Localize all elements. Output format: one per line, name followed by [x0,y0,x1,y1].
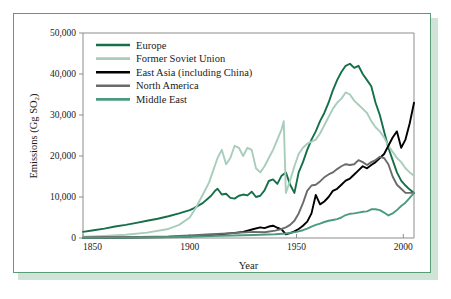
y-tick-label: 50,000 [50,28,76,38]
series-line-former-soviet-union [83,92,414,236]
figure-container: 010,00020,00030,00040,00050,000 18501900… [0,0,451,299]
x-axis-title: Year [239,260,259,271]
series-line-east-asia-including-china [83,103,414,238]
x-tick-label: 1900 [180,242,199,252]
svg-text:Emissions (Gg SO2): Emissions (Gg SO2) [28,93,41,179]
legend-label-5: Middle East [136,94,187,105]
x-tick-label: 2000 [394,242,413,252]
x-tick-label: 1950 [287,242,306,252]
series-line-north-america [83,157,414,238]
y-axis-title: Emissions (Gg SO2) [28,93,41,179]
y-tick-label: 20,000 [50,151,76,161]
axis-lines [83,33,414,238]
legend-label-4: North America [136,80,199,91]
y-tick-label: 10,000 [50,192,76,202]
chart-legend: EuropeFormer Soviet UnionEast Asia (incl… [96,40,253,105]
y-tick-label: 0 [71,233,76,243]
y-axis-ticks: 010,00020,00030,00040,00050,000 [50,28,83,243]
legend-label-1: Europe [136,40,167,51]
line-chart: 010,00020,00030,00040,00050,000 18501900… [0,0,451,299]
y-tick-label: 40,000 [50,69,76,79]
chart-plot-wrapper: 010,00020,00030,00040,00050,000 18501900… [0,0,451,299]
legend-label-2: Former Soviet Union [136,53,226,64]
legend-label-3: East Asia (including China) [136,67,253,79]
data-series-group [83,64,414,238]
y-tick-label: 30,000 [50,110,76,120]
x-tick-label: 1850 [83,242,102,252]
